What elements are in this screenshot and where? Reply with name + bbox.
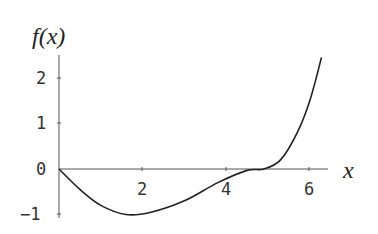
x-tick-6: 6 <box>304 179 314 199</box>
x-axis-label: x <box>342 157 354 183</box>
y-tick-minus1: −1 <box>20 204 40 224</box>
y-tick-2: 2 <box>36 68 46 88</box>
y-tick-1: 1 <box>36 113 46 133</box>
chart: 2 4 6 2 1 0 −1 f(x) x <box>0 0 378 234</box>
y-axis-label: f(x) <box>32 23 65 49</box>
y-tick-0: 0 <box>36 159 46 179</box>
x-tick-4: 4 <box>221 179 231 199</box>
x-tick-2: 2 <box>137 179 147 199</box>
plot-area: 2 4 6 2 1 0 −1 f(x) x <box>0 0 378 234</box>
function-curve <box>59 58 322 215</box>
